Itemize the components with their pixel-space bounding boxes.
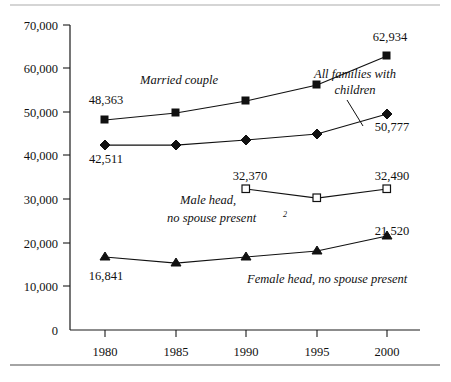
- x-axis-ticks: [105, 330, 387, 337]
- marker-female-head-1985: [171, 258, 181, 266]
- marker-all-families-1990: [241, 135, 251, 145]
- x-tick-label-1980: 1980: [93, 345, 118, 359]
- marker-married-couple-1990: [242, 97, 249, 104]
- annotation-male-head-line2: no spouse present: [167, 211, 257, 225]
- marker-all-families-2000: [382, 109, 392, 119]
- marker-all-families-1995: [312, 129, 322, 139]
- value-label-21520: 21,520: [375, 224, 409, 238]
- y-tick-label-20000: 20,000: [24, 237, 58, 251]
- marker-male-head-1990: [242, 185, 250, 193]
- x-tick-label-1990: 1990: [234, 345, 259, 359]
- value-label-42511: 42,511: [89, 152, 123, 166]
- y-tick-label-60000: 60,000: [24, 62, 58, 76]
- all-families-leader-line: [347, 100, 363, 126]
- value-label-32370: 32,370: [233, 169, 267, 183]
- y-tick-label-10000: 10,000: [24, 280, 58, 294]
- y-tick-label-50000: 50,000: [24, 106, 58, 120]
- annotation-all-families-line1: All families with: [313, 67, 396, 81]
- value-label-62934: 62,934: [373, 30, 408, 44]
- marker-female-head-1990: [241, 252, 251, 260]
- y-tick-label-30000: 30,000: [24, 193, 58, 207]
- marker-all-families-1980: [100, 140, 110, 150]
- y-tick-label-40000: 40,000: [24, 149, 58, 163]
- y-tick-label-0: 0: [52, 324, 58, 338]
- marker-married-couple-1995: [313, 81, 320, 88]
- x-tick-label-1995: 1995: [305, 345, 330, 359]
- marker-male-head-1995: [313, 194, 321, 202]
- x-tick-label-1985: 1985: [164, 345, 189, 359]
- marker-married-couple-2000: [383, 52, 390, 59]
- series-all-families-with-children: [100, 109, 392, 150]
- series-male-head-no-spouse: [242, 185, 391, 202]
- value-label-16841: 16,841: [89, 269, 123, 283]
- annotation-male-head-line1: Male head,: [179, 193, 236, 207]
- marker-married-couple-1980: [101, 116, 108, 123]
- annotation-male-head-footnote-marker: 2: [283, 210, 287, 219]
- annotation-married-couple: Married couple: [139, 73, 219, 87]
- marker-all-families-1985: [171, 140, 181, 150]
- value-label-50777: 50,777: [375, 120, 409, 134]
- marker-married-couple-1985: [172, 109, 179, 116]
- series-female-head-no-spouse: [100, 231, 392, 266]
- annotation-all-families-line2: children: [334, 83, 375, 97]
- family-income-line-chart: 70,000 60,000 50,000 40,000 30,000 20,00…: [0, 0, 451, 382]
- value-label-32490: 32,490: [375, 169, 409, 183]
- value-label-48363: 48,363: [89, 93, 123, 107]
- y-tick-label-70000: 70,000: [24, 19, 58, 33]
- chart-plot-area: 70,000 60,000 50,000 40,000 30,000 20,00…: [0, 0, 451, 382]
- annotation-female-head: Female head, no spouse present: [246, 272, 408, 286]
- y-axis-ticks: [63, 25, 70, 286]
- marker-male-head-2000: [383, 185, 391, 193]
- x-tick-label-2000: 2000: [375, 345, 400, 359]
- marker-female-head-1980: [100, 252, 110, 260]
